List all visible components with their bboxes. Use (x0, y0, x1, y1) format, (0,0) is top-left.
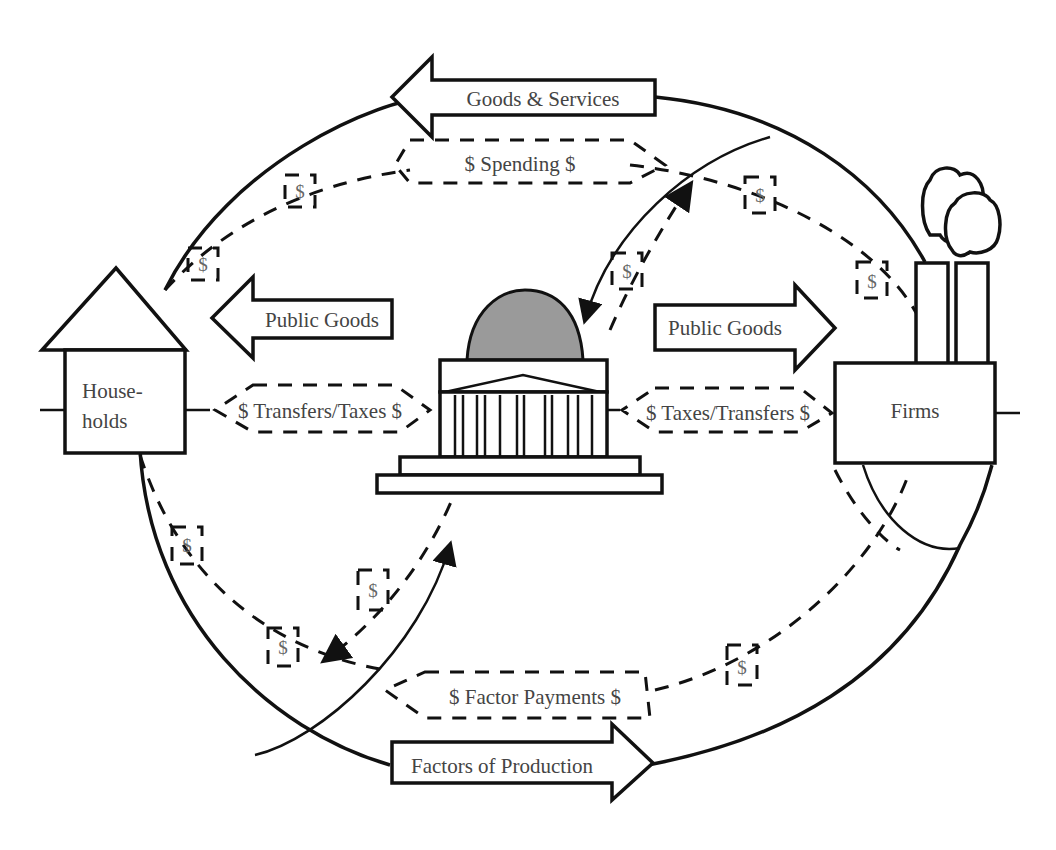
public-goods-left-arrow: Public Goods (212, 277, 392, 358)
factor-payments-label: $ Factor Payments $ (449, 685, 621, 709)
svg-text:$: $ (737, 657, 747, 678)
factors-production-label: Factors of Production (411, 754, 593, 778)
circular-flow-diagram: Goods & Services $ Spending $ Public Goo… (0, 0, 1056, 850)
public-goods-left-label: Public Goods (265, 308, 379, 332)
households-label-1: House- (82, 379, 143, 403)
svg-text:$: $ (368, 580, 378, 601)
firms-label: Firms (890, 399, 939, 423)
money-tag: $ (857, 262, 887, 298)
house-roof-icon (42, 268, 186, 350)
money-tag: $ (358, 570, 388, 610)
taxes-transfers-label: $ Taxes/Transfers $ (646, 401, 810, 425)
svg-text:$: $ (295, 181, 305, 202)
spending-label: $ Spending $ (465, 152, 576, 176)
government-node (377, 290, 662, 493)
dome-icon (467, 290, 583, 360)
factor-payments-flow-box: $ Factor Payments $ (385, 672, 650, 718)
svg-text:$: $ (755, 185, 765, 206)
public-goods-right-arrow: Public Goods (655, 285, 835, 370)
spending-flow-box: $ Spending $ (395, 140, 665, 183)
chimney-right-icon (956, 263, 988, 368)
money-tag: $ (612, 253, 642, 289)
svg-text:$: $ (278, 637, 288, 658)
svg-text:$: $ (622, 261, 632, 282)
svg-text:$: $ (867, 271, 877, 292)
svg-text:$: $ (198, 254, 208, 275)
goods-services-flow-arrow: Goods & Services (392, 57, 655, 137)
smoke-icon (923, 168, 1000, 256)
factors-production-flow-arrow: Factors of Production (392, 724, 653, 800)
transfers-taxes-flow: $ Transfers/Taxes $ (215, 385, 430, 432)
money-tag: $ (745, 177, 775, 213)
taxes-transfers-flow: $ Taxes/Transfers $ (622, 388, 832, 432)
households-node: House- holds (42, 268, 186, 453)
firms-node: Firms (835, 168, 1000, 463)
goods-services-label: Goods & Services (467, 87, 620, 111)
public-goods-right-label: Public Goods (668, 316, 782, 340)
svg-text:$: $ (182, 535, 192, 556)
households-label-2: holds (82, 409, 128, 433)
transfers-taxes-label: $ Transfers/Taxes $ (238, 399, 402, 423)
chimney-left-icon (916, 263, 948, 368)
